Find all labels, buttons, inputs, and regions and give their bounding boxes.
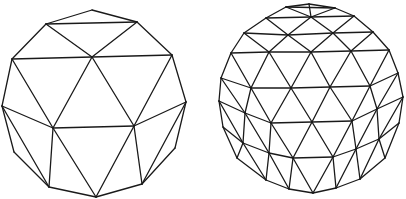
edge	[53, 126, 134, 128]
edge	[293, 158, 313, 193]
edge	[223, 127, 237, 158]
edge	[269, 52, 291, 88]
edge	[245, 113, 269, 153]
edge	[351, 50, 389, 51]
edge	[96, 184, 142, 197]
edge	[92, 55, 172, 57]
edge	[251, 88, 271, 123]
edge	[311, 52, 330, 87]
edge	[286, 7, 311, 17]
edge	[289, 189, 313, 193]
edge	[221, 53, 231, 78]
edge	[379, 139, 385, 158]
edge	[351, 32, 373, 51]
edge	[12, 24, 46, 59]
edge	[12, 59, 53, 128]
edge	[312, 122, 333, 157]
edge	[291, 87, 330, 88]
edge	[49, 128, 53, 187]
edge	[137, 22, 172, 55]
edge	[172, 55, 186, 102]
edge	[46, 24, 92, 57]
edge	[352, 121, 356, 149]
edge	[53, 57, 92, 128]
edge	[269, 153, 289, 189]
edge	[288, 33, 333, 35]
edge	[311, 8, 335, 17]
edge	[373, 32, 389, 50]
edge	[354, 16, 373, 32]
edge	[288, 17, 311, 35]
geodesic-spheres-diagram	[0, 0, 406, 199]
edge	[243, 143, 269, 153]
edge	[271, 123, 293, 158]
edge	[293, 157, 333, 158]
edge	[269, 153, 293, 158]
edge	[333, 33, 351, 51]
edge	[237, 158, 266, 180]
edge	[311, 16, 354, 17]
edge	[2, 106, 14, 152]
edge	[251, 52, 269, 88]
edge	[291, 88, 312, 122]
edge	[49, 187, 96, 197]
edge	[313, 157, 333, 193]
edge	[244, 33, 269, 52]
edge	[360, 158, 385, 179]
edge	[271, 122, 312, 123]
edge	[244, 33, 288, 35]
edge	[53, 128, 96, 197]
edge	[46, 10, 92, 24]
edge	[312, 87, 330, 122]
edge	[312, 121, 352, 122]
edge	[92, 10, 137, 22]
edge	[46, 22, 137, 24]
edge	[245, 113, 271, 123]
edge	[330, 51, 351, 87]
edge	[370, 86, 377, 109]
edge	[333, 32, 373, 33]
figure	[0, 0, 406, 199]
edge	[370, 50, 389, 86]
edge	[2, 59, 12, 106]
edge	[288, 35, 311, 52]
edge	[309, 4, 311, 17]
edge	[12, 57, 92, 59]
edge	[266, 18, 288, 35]
edge	[289, 158, 293, 189]
edge	[134, 102, 186, 126]
edge	[96, 126, 134, 197]
edge	[333, 16, 354, 33]
edge	[269, 123, 271, 153]
edge	[243, 113, 245, 143]
edge	[351, 51, 370, 86]
edge	[245, 88, 251, 113]
edge	[266, 153, 269, 180]
geodesic-sphere-high-frequency	[219, 4, 403, 193]
edge	[2, 106, 53, 128]
edge	[313, 188, 336, 193]
edge	[352, 86, 370, 121]
edge	[266, 7, 286, 18]
edge	[311, 17, 333, 33]
edge	[377, 109, 379, 139]
edge	[134, 126, 142, 184]
edge	[333, 157, 336, 188]
edge	[389, 50, 398, 73]
edge	[231, 52, 269, 53]
edge	[92, 57, 134, 126]
edge	[335, 8, 354, 16]
edge	[360, 139, 379, 179]
edge	[175, 102, 186, 148]
edge	[356, 109, 377, 149]
edge	[356, 149, 360, 179]
edge	[142, 102, 186, 184]
edge	[219, 78, 221, 101]
edge	[311, 51, 351, 52]
edge	[330, 86, 370, 87]
edge	[92, 22, 137, 57]
geodesic-sphere-low-frequency	[2, 10, 186, 197]
edge	[291, 52, 311, 88]
edge	[398, 73, 403, 97]
edge	[244, 18, 266, 33]
